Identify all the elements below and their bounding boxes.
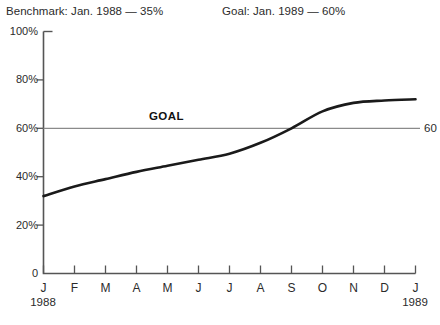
goal-line-label: GOAL <box>149 110 184 122</box>
x-axis-tick-label: N <box>341 282 367 294</box>
x-axis-tick-label: J <box>403 282 429 294</box>
x-axis-tick-label: M <box>155 282 181 294</box>
chart-screenshot: Benchmark: Jan. 1988 — 35% Goal: Jan. 19… <box>0 0 440 325</box>
x-axis-tick-label: S <box>279 282 305 294</box>
x-axis-tick-label: F <box>62 282 88 294</box>
x-axis-tick-label: J <box>217 282 243 294</box>
x-axis-tick-label: D <box>372 282 398 294</box>
x-axis-tick-label: A <box>124 282 150 294</box>
x-axis-labels: JFMAMJJASONDJ <box>0 0 440 325</box>
x-axis-tick-label: J <box>186 282 212 294</box>
x-axis-tick-label: A <box>248 282 274 294</box>
x-axis-year-end: 1989 <box>395 296 435 308</box>
x-axis-tick-label: O <box>310 282 336 294</box>
x-axis-tick-label: M <box>93 282 119 294</box>
goal-line-value-label: 60 <box>424 122 437 134</box>
x-axis-tick-label: J <box>31 282 57 294</box>
x-axis-year-start: 1988 <box>23 296 63 308</box>
